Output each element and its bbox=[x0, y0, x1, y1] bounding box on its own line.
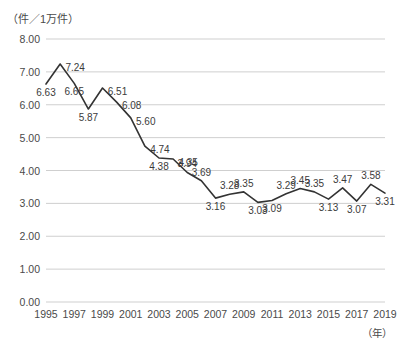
data-point-label: 3.09 bbox=[262, 203, 281, 214]
data-point-label: 3.35 bbox=[305, 178, 324, 189]
y-axis-tick-label: 7.00 bbox=[2, 66, 40, 78]
data-point-label: 3.31 bbox=[375, 196, 394, 207]
data-point-label: 3.47 bbox=[333, 174, 352, 185]
y-axis-tick-label: 3.00 bbox=[2, 197, 40, 209]
y-axis-tick-label: 1.00 bbox=[2, 263, 40, 275]
data-point-label: 3.58 bbox=[361, 170, 380, 181]
data-point-label: 3.16 bbox=[206, 201, 225, 212]
data-point-label: 4.38 bbox=[149, 161, 168, 172]
data-point-label: 6.65 bbox=[65, 86, 84, 97]
data-point-label: 3.07 bbox=[347, 204, 366, 215]
data-point-label: 5.60 bbox=[136, 116, 155, 127]
y-axis-tick-label: 0.00 bbox=[2, 296, 40, 308]
data-point-label: 3.35 bbox=[234, 178, 253, 189]
y-axis-tick-label: 8.00 bbox=[2, 33, 40, 45]
data-point-label: 6.51 bbox=[108, 86, 127, 97]
line-chart: （件／1万件） （年） 0.001.002.003.004.005.006.00… bbox=[0, 0, 398, 346]
data-point-label: 4.74 bbox=[150, 144, 169, 155]
data-point-label: 3.69 bbox=[192, 167, 211, 178]
x-axis-tick-label: 2019 bbox=[368, 308, 398, 320]
y-axis-tick-label: 4.00 bbox=[2, 165, 40, 177]
y-axis-tick-label: 2.00 bbox=[2, 230, 40, 242]
y-axis-tick-label: 6.00 bbox=[2, 99, 40, 111]
data-point-label: 3.13 bbox=[319, 202, 338, 213]
data-point-label: 5.87 bbox=[79, 112, 98, 123]
y-axis-tick-label: 5.00 bbox=[2, 132, 40, 144]
data-point-label: 6.63 bbox=[36, 87, 55, 98]
data-point-label: 7.24 bbox=[65, 62, 84, 73]
data-point-label: 6.08 bbox=[122, 100, 141, 111]
